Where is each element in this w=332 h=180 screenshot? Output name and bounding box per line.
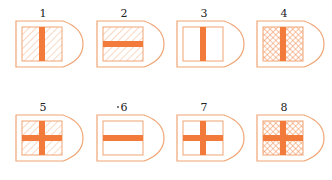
pennant-shape-crosshatch-cross: [256, 114, 328, 164]
badge-item-2: 2: [96, 8, 168, 78]
item-number: 3: [176, 8, 232, 20]
badge-item-3: 3: [176, 8, 248, 78]
pennant-shape-diagonal-horizontal-bar: [96, 20, 168, 70]
badge-item-7: 7: [176, 102, 248, 172]
badge-item-8: 8: [256, 102, 328, 172]
item-number: 4: [256, 8, 312, 20]
item-number: 2: [96, 8, 152, 20]
item-number: 1: [15, 8, 71, 20]
pennant-shape-diagonal-cross: [15, 114, 87, 164]
stray-mark: [117, 106, 119, 108]
badge-item-4: 4: [256, 8, 328, 78]
item-number: 6: [96, 102, 152, 114]
badge-item-6: 6: [96, 102, 168, 172]
item-number: 5: [15, 102, 71, 114]
item-number: 8: [256, 102, 312, 114]
badge-item-1: 1: [15, 8, 87, 78]
pennant-shape-plain-horizontal-bar: [96, 114, 168, 164]
pennant-shape-crosshatch-vertical-bar: [256, 20, 328, 70]
badge-item-5: 5: [15, 102, 87, 172]
pennant-shape-plain-vertical-bar: [176, 20, 248, 70]
pennant-shape-plain-cross: [176, 114, 248, 164]
pennant-shape-diagonal-vertical-bar: [15, 20, 87, 70]
item-number: 7: [176, 102, 232, 114]
